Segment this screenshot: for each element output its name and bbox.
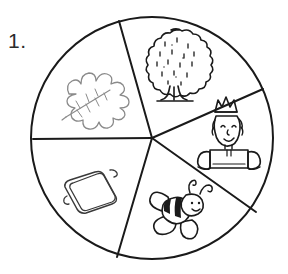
divider-left — [33, 138, 152, 139]
worksheet-figure: 1. — [0, 0, 288, 274]
spinner-wheel — [0, 0, 288, 274]
